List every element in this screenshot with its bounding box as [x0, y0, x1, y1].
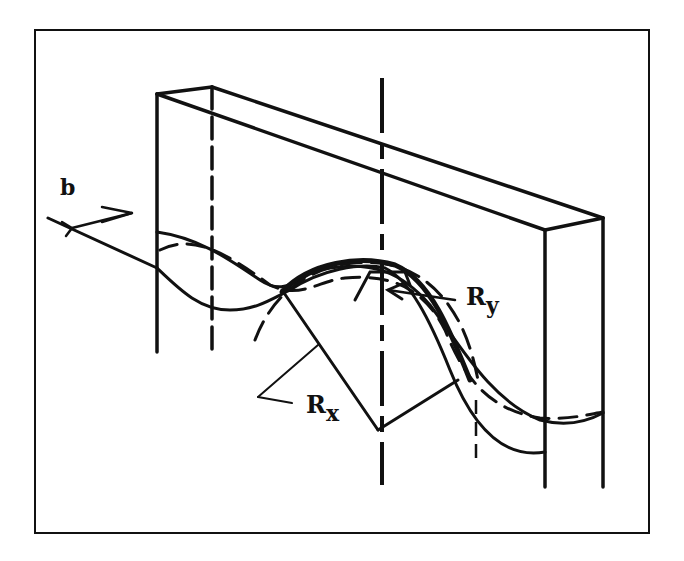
ry-label: Ry [466, 282, 500, 318]
figure-frame [35, 30, 649, 533]
width-label: b [60, 174, 75, 200]
rx-sub: x [326, 400, 340, 426]
rx-main: R [306, 390, 327, 419]
ry-main: R [466, 282, 487, 311]
ry-sub: y [485, 292, 500, 318]
rx-label: Rx [306, 390, 340, 426]
beam-curvature-diagram: b Ry Rx [0, 0, 684, 561]
